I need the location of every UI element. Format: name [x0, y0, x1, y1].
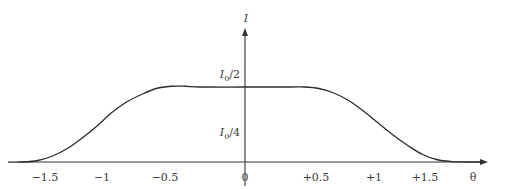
x-tick-label: +0.5 — [303, 171, 330, 184]
x-tick-label: 0 — [242, 171, 249, 184]
x-tick-labels: −1.5−1−0.50+0.5+1+1.5 — [32, 171, 439, 184]
x-tick-label: −1 — [94, 171, 110, 184]
intensity-plot: −1.5−1−0.50+0.5+1+1.5 I0/2I0/4 θ I — [0, 0, 507, 189]
y-axis-arrow-icon — [242, 28, 248, 36]
y-axis-label: I — [243, 12, 249, 25]
x-tick-label: +1.5 — [412, 171, 439, 184]
y-tick-label: I0/4 — [219, 126, 240, 141]
x-axis-label: θ — [470, 171, 477, 184]
y-tick-label: I0/2 — [219, 68, 240, 83]
x-tick-label: +1 — [366, 171, 382, 184]
y-tick-labels: I0/2I0/4 — [219, 68, 240, 141]
x-tick-label: −1.5 — [32, 171, 59, 184]
axes — [18, 28, 488, 186]
x-tick-label: −0.5 — [152, 171, 179, 184]
